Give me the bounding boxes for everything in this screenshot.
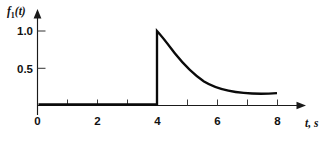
- chart-plot-area: 1.0 0.5 0 2 4 6 8 f1(t) t, s: [0, 0, 331, 141]
- y-axis-arrow-icon: [34, 9, 42, 19]
- y-tick-label-0.5: 0.5: [17, 63, 34, 75]
- x-axis-label-unit: , s: [307, 117, 319, 129]
- y-axis-label-arg: (t): [15, 5, 26, 18]
- signal-curve: [39, 31, 278, 105]
- x-tick-label-4: 4: [154, 115, 161, 127]
- chart-figure: 1.0 0.5 0 2 4 6 8 f1(t) t, s: [0, 0, 331, 141]
- x-tick-label-0: 0: [34, 115, 40, 127]
- x-axis-label: t, s: [305, 117, 319, 129]
- x-axis-arrow-icon: [297, 102, 307, 110]
- x-tick-label-6: 6: [214, 115, 220, 127]
- y-tick-label-1.0: 1.0: [17, 25, 33, 37]
- x-tick-label-2: 2: [94, 115, 100, 127]
- y-axis-label: f1(t): [7, 5, 26, 20]
- x-tick-label-8: 8: [274, 115, 281, 127]
